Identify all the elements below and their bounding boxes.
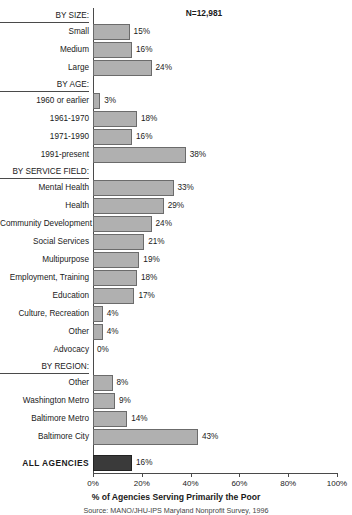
bar	[93, 252, 139, 268]
bar-track: 0%	[93, 341, 352, 359]
axis-tick-label: 80%	[280, 479, 296, 489]
bar-track: 24%	[93, 59, 352, 77]
bar-value-label: 24%	[156, 218, 172, 229]
bar-category-label: Other	[0, 378, 89, 388]
bar-track: 33%	[93, 179, 352, 197]
bar-category-label: Advocacy	[0, 345, 89, 355]
bar-row: 1960 or earlier3%	[0, 92, 352, 110]
axis-tick-label: 0%	[87, 479, 99, 489]
row-spacer	[0, 446, 352, 454]
axis-tick-label: 20%	[134, 479, 150, 489]
bar-row: Social Services21%	[0, 233, 352, 251]
bar-category-label: Baltimore City	[0, 432, 89, 442]
bar-row: Washington Metro9%	[0, 392, 352, 410]
bar-row: Baltimore Metro14%	[0, 410, 352, 428]
section-header-label: BY SERVICE FIELD:	[0, 166, 89, 179]
bar-track: 16%	[93, 128, 352, 146]
bar-value-label: 21%	[148, 236, 164, 247]
bar	[93, 270, 137, 286]
bar-row: Advocacy0%	[0, 341, 352, 359]
bar-row: Community Development24%	[0, 215, 352, 233]
bar-category-label: Employment, Training	[0, 273, 89, 283]
bar-row: Other4%	[0, 323, 352, 341]
bar-track: 15%	[93, 23, 352, 41]
bar-category-label: 1991-present	[0, 150, 89, 160]
total-bar	[93, 455, 132, 471]
bar-row: Medium16%	[0, 41, 352, 59]
bar-value-label: 33%	[178, 182, 194, 193]
axis-tick-mark	[288, 473, 289, 477]
bar-row: Health29%	[0, 197, 352, 215]
source-note: Source: MANO/JHU-IPS Maryland Nonprofit …	[0, 506, 352, 515]
section-header-row: BY AGE:	[0, 77, 352, 92]
axis-tick-mark	[337, 473, 338, 477]
bar	[93, 42, 132, 58]
bar-track: 38%	[93, 146, 352, 164]
bar-track: 9%	[93, 392, 352, 410]
bar-track: 16%	[93, 41, 352, 59]
axis-tick-mark	[142, 473, 143, 477]
axis-tick-mark	[191, 473, 192, 477]
bar-category-label: Mental Health	[0, 183, 89, 193]
bar-category-label: Medium	[0, 45, 89, 55]
bar	[93, 93, 100, 109]
bar-value-label: 8%	[117, 377, 129, 388]
section-header-row: BY REGION:	[0, 359, 352, 374]
bar-value-label: 17%	[138, 290, 154, 301]
bar	[93, 411, 127, 427]
bar-category-label: 1960 or earlier	[0, 96, 89, 106]
bar-row: Baltimore City43%	[0, 428, 352, 446]
bar-category-label: Small	[0, 27, 89, 37]
bar-value-label: 4%	[107, 308, 119, 319]
total-bar-track: 16%	[93, 454, 352, 472]
bar-category-label: 1971-1990	[0, 132, 89, 142]
section-header-label: BY SIZE:	[0, 10, 89, 23]
axis-tick-label: 60%	[231, 479, 247, 489]
bar-value-label: 0%	[97, 344, 109, 355]
bar-category-label: Social Services	[0, 237, 89, 247]
bar	[93, 147, 186, 163]
total-category-label: ALL AGENCIES	[0, 458, 89, 468]
bar-row: 1991-present38%	[0, 146, 352, 164]
bar-track: 18%	[93, 110, 352, 128]
total-bar-row: ALL AGENCIES16%	[0, 454, 352, 472]
axis-tick-label: 40%	[183, 479, 199, 489]
bar-row: Employment, Training18%	[0, 269, 352, 287]
bar-track: 24%	[93, 215, 352, 233]
bar	[93, 234, 144, 250]
bar-value-label: 19%	[143, 254, 159, 265]
bar-value-label: 24%	[156, 62, 172, 73]
bar-row: Culture, Recreation4%	[0, 305, 352, 323]
bar-category-label: Community Development	[0, 219, 89, 229]
bar	[93, 324, 103, 340]
bar	[93, 306, 103, 322]
bar-category-label: Other	[0, 327, 89, 337]
bar-value-label: 9%	[119, 395, 131, 406]
bar-value-label: 16%	[136, 44, 152, 55]
section-header-label: BY AGE:	[0, 79, 89, 92]
bar-track: 29%	[93, 197, 352, 215]
bar-value-label: 4%	[107, 326, 119, 337]
bar	[93, 129, 132, 145]
bar-track: 17%	[93, 287, 352, 305]
bar-track: 4%	[93, 305, 352, 323]
section-header-row: BY SERVICE FIELD:	[0, 164, 352, 179]
section-header-label: BY REGION:	[0, 361, 89, 374]
bar-track: 19%	[93, 251, 352, 269]
bar-track: 21%	[93, 233, 352, 251]
bar-value-label: 43%	[202, 431, 218, 442]
bar-category-label: 1961-1970	[0, 114, 89, 124]
total-bar-value-label: 16%	[136, 457, 152, 468]
bar	[93, 393, 115, 409]
bar-category-label: Multipurpose	[0, 255, 89, 265]
bar-row: Small15%	[0, 23, 352, 41]
bar-category-label: Washington Metro	[0, 396, 89, 406]
bar-category-label: Baltimore Metro	[0, 414, 89, 424]
bar-value-label: 38%	[190, 149, 206, 160]
bar	[93, 60, 152, 76]
plot-rows: BY SIZE:Small15%Medium16%Large24%BY AGE:…	[0, 8, 352, 472]
section-header-row: BY SIZE:	[0, 8, 352, 23]
bar-value-label: 3%	[104, 95, 116, 106]
bar-track: 18%	[93, 269, 352, 287]
